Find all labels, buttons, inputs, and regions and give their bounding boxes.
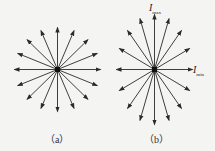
ray-arrow [155, 70, 182, 109]
ray-arrow [155, 31, 182, 70]
caption-a: （a） [45, 131, 69, 146]
ray-arrow [27, 70, 57, 100]
ray-diagram [0, 0, 215, 151]
ray-arrow [128, 31, 155, 70]
ray-arrow [58, 40, 88, 70]
ray-arrow [128, 70, 155, 109]
caption-b: （b） [144, 131, 169, 146]
label-i-min: Imin [193, 64, 204, 77]
figure: Imax Imin （a） （b） [0, 0, 215, 151]
label-i-max: Imax [149, 2, 161, 15]
ray-arrow [58, 70, 88, 100]
center-dot-b [152, 67, 157, 72]
ray-arrow [27, 40, 57, 70]
center-dot-a [55, 67, 60, 72]
